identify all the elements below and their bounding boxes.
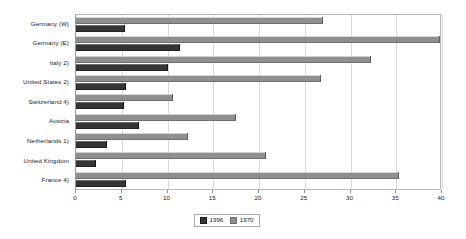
x-axis-tick-label: 10 (163, 194, 170, 201)
bar-group (76, 92, 440, 111)
bar-1970 (76, 75, 321, 82)
bar-1996 (76, 141, 107, 148)
x-axis-tick (395, 190, 396, 193)
x-axis-tick-label: 30 (346, 194, 353, 201)
bar-1996 (76, 44, 180, 51)
bar-group (76, 73, 440, 92)
bar-1970 (76, 56, 371, 63)
bar-group (76, 112, 440, 131)
x-axis-tick (350, 190, 351, 193)
bar-1970 (76, 94, 173, 101)
bar-1970 (76, 152, 266, 159)
legend-item[interactable]: 1996 (200, 217, 223, 224)
bar-spacer (76, 179, 440, 180)
x-axis-tick (212, 190, 213, 193)
bar-group (76, 54, 440, 73)
bar-1970 (76, 172, 399, 179)
bar-group (76, 34, 440, 53)
bar-group (76, 131, 440, 150)
bar-1996 (76, 83, 126, 90)
bar-1970 (76, 114, 236, 121)
bar-spacer (76, 24, 440, 25)
plot-area (75, 14, 441, 190)
bar-spacer (76, 82, 440, 83)
bar-1996 (76, 122, 139, 129)
x-axis-tick-label: 0 (73, 194, 76, 201)
bar-group (76, 150, 440, 169)
category-label: Germany (W) (0, 14, 72, 34)
x-axis-tick-label: 35 (392, 194, 399, 201)
bar-1970 (76, 133, 188, 140)
bar-spacer (76, 140, 440, 141)
category-label: Switzerland 4) (0, 92, 72, 112)
bar-group (76, 15, 440, 34)
category-label: Netherlands 1) (0, 131, 72, 151)
x-axis-tick-label: 5 (119, 194, 122, 201)
category-axis-labels: Germany (W)Germany (E)Italy 2)United Sta… (0, 14, 72, 190)
bar-1996 (76, 64, 168, 71)
x-axis-tick (167, 190, 168, 193)
bar-1996 (76, 102, 124, 109)
x-axis-tick (258, 190, 259, 193)
legend-label: 1970 (240, 217, 254, 223)
x-axis-tick (75, 190, 76, 193)
legend-label: 1996 (210, 217, 224, 223)
x-axis-tick (304, 190, 305, 193)
dark-gray-swatch (200, 217, 207, 224)
category-label: United Kingdom (0, 151, 72, 171)
bar-1996 (76, 25, 125, 32)
legend-item[interactable]: 1970 (230, 217, 253, 224)
gridline (442, 15, 443, 189)
bar-chart: Germany (W)Germany (E)Italy 2)United Sta… (0, 0, 466, 239)
x-axis-tick-label: 15 (209, 194, 216, 201)
bar-1996 (76, 180, 126, 187)
bar-spacer (76, 159, 440, 160)
light-gray-swatch (230, 217, 237, 224)
bar-1996 (76, 160, 96, 167)
category-label: Austria (0, 112, 72, 132)
x-axis-tick-label: 25 (300, 194, 307, 201)
category-label: Italy 2) (0, 53, 72, 73)
x-axis: 0510152025303540 (75, 190, 441, 204)
x-axis-tick-label: 40 (438, 194, 445, 201)
bar-1970 (76, 17, 323, 24)
x-axis-tick (121, 190, 122, 193)
bar-rows (76, 15, 440, 189)
category-label: France 4) (0, 171, 72, 191)
x-axis-tick (441, 190, 442, 193)
category-label: United States 2) (0, 73, 72, 93)
bar-1970 (76, 36, 440, 43)
x-axis-tick-label: 20 (255, 194, 262, 201)
category-label: Germany (E) (0, 34, 72, 54)
bar-spacer (76, 101, 440, 102)
bar-group (76, 170, 440, 189)
chart-legend: 19961970 (194, 214, 260, 227)
